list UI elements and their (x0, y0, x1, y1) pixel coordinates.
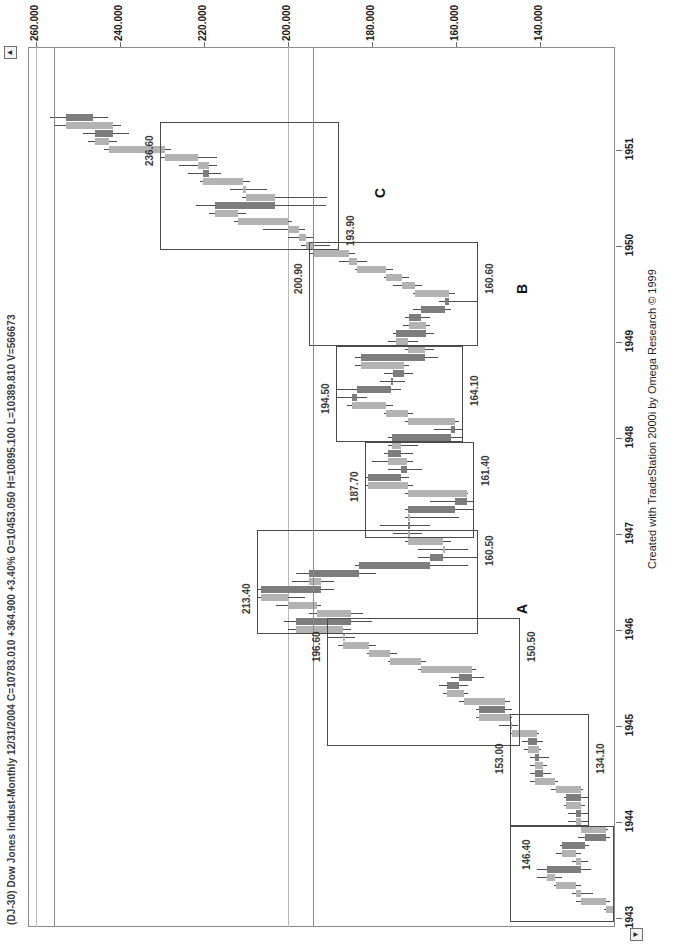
tick-mark (616, 630, 622, 631)
price-level-label-134-10: 134.10 (595, 743, 606, 774)
credit-text: Created with TradeStation 2000i by Omega… (646, 269, 658, 569)
tick-mark (616, 534, 622, 535)
tick-mark (616, 918, 622, 919)
annotation-labels-layer: ABC146.40134.10153.00150.50196.60213.401… (29, 48, 614, 926)
chart-window: (DJ-30) Dow Jones Indust-Monthly 12/31/2… (0, 0, 680, 949)
tick-mark (616, 822, 622, 823)
price-level-label-200-90: 200.90 (293, 263, 304, 294)
tick-mark (616, 246, 622, 247)
symbol-quote-header: (DJ-30) Dow Jones Indust-Monthly 12/31/2… (6, 314, 17, 925)
price-level-label-161-40: 161.40 (480, 455, 491, 486)
price-level-label-150-50: 150.50 (526, 631, 537, 662)
price-level-label-193-90: 193.90 (345, 215, 356, 246)
pattern-letter-A: A (514, 604, 530, 614)
pattern-letter-C: C (372, 188, 388, 198)
rotated-chart-canvas: (DJ-30) Dow Jones Indust-Monthly 12/31/2… (0, 0, 680, 949)
price-axis: 260.000 240.000 220.000 200.000 180.000 … (28, 1, 615, 47)
price-level-label-187-70: 187.70 (349, 471, 360, 502)
tick-mark (616, 438, 622, 439)
price-level-label-164-10: 164.10 (469, 375, 480, 406)
tick-mark (616, 726, 622, 727)
price-level-label-153-00: 153.00 (494, 743, 505, 774)
scroll-left-arrow[interactable]: ▼ (630, 928, 643, 941)
price-level-label-236-60: 236.60 (144, 135, 155, 166)
price-level-label-194-50: 194.50 (320, 383, 331, 414)
price-level-label-213-40: 213.40 (241, 583, 252, 614)
price-level-label-196-60: 196.60 (311, 631, 322, 662)
pattern-letter-B: B (514, 284, 530, 294)
scroll-right-arrow[interactable]: ▲ (4, 46, 17, 59)
tick-mark (616, 150, 622, 151)
price-level-label-160-60: 160.60 (484, 263, 495, 294)
date-axis: 1943 1944 1945 1946 1947 1948 1949 (616, 47, 650, 927)
price-level-label-146-40: 146.40 (521, 839, 532, 870)
tick-mark (616, 342, 622, 343)
price-level-label-160-50: 160.50 (484, 535, 495, 566)
